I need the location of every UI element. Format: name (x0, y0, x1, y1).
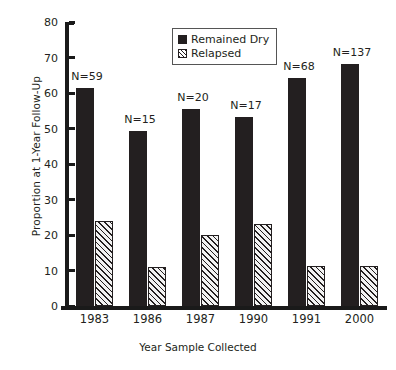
sample-size-label-1983: N=59 (71, 71, 102, 82)
y-tick-label: 70 (44, 52, 58, 63)
sample-size-label-2000: N=137 (333, 47, 371, 58)
legend-label-relapsed: Relapsed (191, 48, 241, 59)
y-tick-mark (69, 21, 75, 24)
y-tick-mark (69, 198, 75, 201)
y-tick-label: 30 (44, 194, 58, 205)
y-tick-label: 0 (51, 301, 58, 312)
y-axis-title: Proportion at 1-Year Follow-Up (30, 36, 42, 276)
y-tick-label: 60 (44, 88, 58, 99)
bar-remained-dry-1983 (76, 88, 94, 306)
bar-chart-figure: Proportion at 1-Year Follow-Up 010203040… (0, 0, 396, 370)
x-tick-label-1991: 1991 (292, 314, 321, 326)
bar-relapsed-2000 (360, 266, 378, 306)
sample-size-label-1990: N=17 (230, 100, 261, 111)
x-tick-label-1986: 1986 (133, 314, 162, 326)
bar-remained-dry-2000 (341, 64, 359, 306)
sample-size-label-1986: N=15 (124, 114, 155, 125)
y-tick-mark (69, 127, 75, 130)
bar-remained-dry-1991 (288, 78, 306, 306)
legend-item-relapsed: Relapsed (178, 47, 269, 60)
bar-group-1983 (76, 22, 113, 306)
sample-size-label-1987: N=20 (177, 92, 208, 103)
bar-relapsed-1987 (201, 235, 219, 306)
bar-remained-dry-1986 (129, 131, 147, 306)
y-tick-label: 50 (44, 123, 58, 134)
y-tick-mark (69, 163, 75, 166)
solid-black-square-icon (178, 35, 187, 44)
bar-relapsed-1991 (307, 266, 325, 306)
y-tick-label: 20 (44, 230, 58, 241)
y-tick-mark (69, 92, 75, 95)
x-axis-title: Year Sample Collected (0, 341, 396, 353)
y-tick-mark (69, 234, 75, 237)
bar-relapsed-1983 (95, 221, 113, 306)
x-tick-label-1983: 1983 (80, 314, 109, 326)
y-tick-label: 10 (44, 265, 58, 276)
bar-remained-dry-1990 (235, 117, 253, 306)
sample-size-label-1991: N=68 (283, 61, 314, 72)
bar-group-1986 (129, 22, 166, 306)
legend-item-remained-dry: Remained Dry (178, 33, 269, 46)
y-tick-mark (69, 269, 75, 272)
x-tick-label-1987: 1987 (186, 314, 215, 326)
bar-relapsed-1986 (148, 267, 166, 306)
bar-remained-dry-1987 (182, 109, 200, 306)
x-tick-label-1990: 1990 (239, 314, 268, 326)
bar-relapsed-1990 (254, 224, 272, 306)
x-axis-spine (61, 306, 387, 310)
legend-label-remained-dry: Remained Dry (191, 34, 269, 45)
hatched-square-icon (178, 49, 187, 58)
y-tick-label: 40 (44, 159, 58, 170)
y-tick-mark (69, 305, 75, 308)
y-tick-mark (69, 56, 75, 59)
bar-group-2000 (341, 22, 378, 306)
y-tick-label: 80 (44, 17, 58, 28)
chart-legend: Remained Dry Relapsed (172, 28, 277, 65)
x-tick-label-2000: 2000 (345, 314, 374, 326)
